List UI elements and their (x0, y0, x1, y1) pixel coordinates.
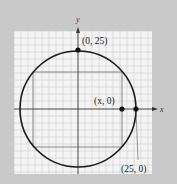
point-25-0 (133, 106, 138, 111)
y-axis-label: y (75, 15, 80, 24)
grid (14, 31, 152, 174)
point-0-25 (75, 47, 80, 52)
point-x-0 (119, 106, 124, 111)
x-axis-label: x (159, 105, 164, 114)
y-axis-arrow-icon (76, 27, 80, 33)
label-point-0-25: (0, 25) (82, 36, 107, 47)
x-axis-arrow-icon (152, 107, 158, 111)
circle-diagram: y x (0, 25) (x, 0) (25, 0) (0, 0, 177, 184)
label-point-x-0: (x, 0) (94, 96, 115, 107)
label-point-25-0: (25, 0) (121, 164, 146, 175)
